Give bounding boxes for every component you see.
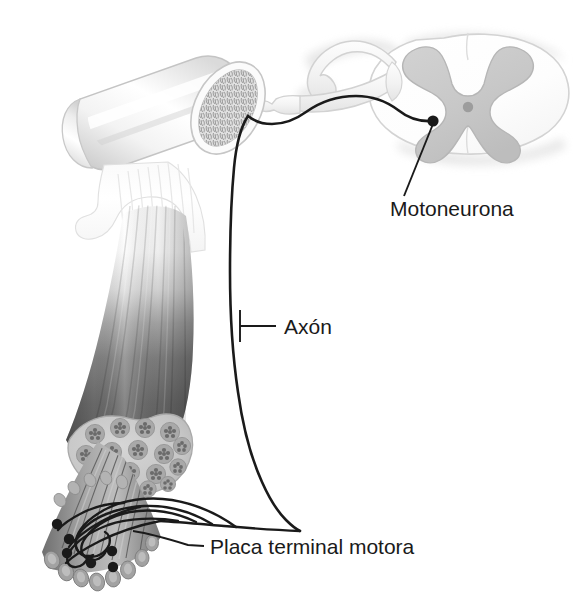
motor-end-plate [52, 519, 62, 529]
motor-end-plate [107, 546, 117, 556]
fascicle [170, 459, 186, 475]
motoneuron-muscle-diagram: Motoneurona Axón Placa terminal motora [0, 0, 573, 608]
motor-end-plate [108, 562, 118, 572]
fascicle [128, 440, 147, 459]
central-canal-icon [463, 102, 473, 112]
motor-end-plate [64, 534, 74, 544]
fascicle [85, 424, 104, 443]
fascicle [135, 418, 154, 437]
fascicle [173, 437, 190, 454]
fascicle [160, 476, 175, 491]
motoneurona-label: Motoneurona [390, 197, 514, 220]
axon-label: Axón [284, 315, 332, 338]
fascicle [110, 418, 129, 437]
fascicle [154, 444, 173, 463]
placa-terminal-motora-label: Placa terminal motora [210, 535, 415, 558]
motor-end-plate [62, 548, 72, 558]
motor-end-plate [86, 558, 96, 568]
